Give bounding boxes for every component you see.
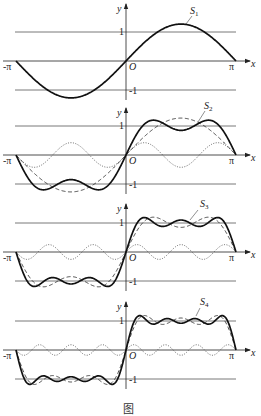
series-label-s1: S1 (190, 5, 199, 18)
y-tick-1: 1 (119, 120, 124, 131)
x-axis-label: x (250, 249, 256, 260)
origin-label: O (129, 155, 136, 166)
figure-caption: 图 (0, 400, 261, 416)
series-label-leader (190, 210, 198, 220)
origin-label: O (129, 252, 136, 263)
y-tick-1: 1 (119, 315, 124, 326)
series-label-s4: S4 (200, 296, 209, 309)
y-tick-neg1: -1 (129, 85, 137, 96)
panel-s3: xyO-ππ1-1S3 (3, 198, 256, 291)
panel-s4: xyO-ππ1-1S4 (3, 296, 256, 389)
y-tick-neg1: -1 (129, 179, 137, 190)
y-tick-neg1: -1 (129, 276, 137, 287)
y-axis-label: y (116, 107, 122, 118)
neg-pi-tick-label: -π (3, 155, 11, 166)
series-label-s3: S3 (200, 198, 209, 211)
pi-tick-label: π (229, 252, 234, 263)
y-tick-1: 1 (119, 217, 124, 228)
pi-tick-label: π (229, 350, 234, 361)
x-axis-label: x (250, 347, 256, 358)
panel-s2: xyO-ππ1-1S2 (3, 100, 256, 194)
x-axis-label: x (250, 152, 256, 163)
origin-label: O (129, 61, 136, 72)
neg-pi-tick-label: -π (3, 252, 11, 263)
neg-pi-tick-label: -π (3, 350, 11, 361)
series-label-s2: S2 (204, 100, 213, 113)
x-axis-label: x (250, 58, 256, 69)
y-axis-label: y (116, 203, 122, 214)
y-tick-neg1: -1 (129, 374, 137, 385)
y-axis-label: y (116, 301, 122, 312)
pi-tick-label: π (229, 61, 234, 72)
origin-label: O (129, 350, 136, 361)
y-tick-1: 1 (119, 26, 124, 37)
series-label-leader (196, 308, 200, 316)
series-label-leader (186, 16, 192, 24)
y-axis-label: y (116, 3, 122, 14)
pi-tick-label: π (229, 155, 234, 166)
neg-pi-tick-label: -π (3, 61, 11, 72)
panel-s1: xyO-ππ1-1S1 (3, 3, 256, 100)
